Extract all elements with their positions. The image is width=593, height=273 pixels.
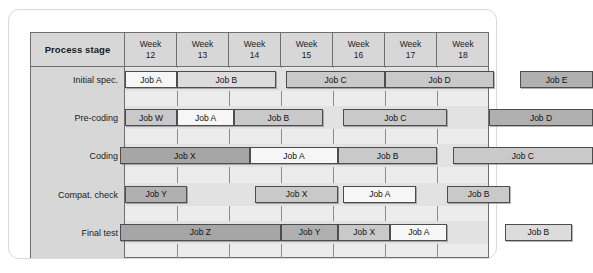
week-prefix: Week — [296, 39, 318, 49]
column-header-week-15: Week15 — [281, 33, 333, 66]
gantt-grid: Job AJob BJob CJob DJob EJob WJob AJob B… — [125, 67, 488, 258]
week-number: 18 — [458, 50, 467, 60]
column-header-week-18: Week18 — [437, 33, 489, 66]
row-label-compat-check: Compat. check — [58, 186, 118, 204]
column-header-week-13: Week13 — [177, 33, 229, 66]
week-prefix: Week — [348, 39, 370, 49]
gantt-bar[interactable]: Job B — [177, 71, 276, 88]
table-body: Initial spec.Pre-codingCodingCompat. che… — [31, 67, 488, 258]
gantt-bar[interactable]: Job Y — [125, 186, 187, 203]
week-prefix: Week — [140, 39, 162, 49]
gantt-bar[interactable]: Job X — [120, 147, 250, 164]
week-prefix: Week — [192, 39, 214, 49]
gantt-bar[interactable]: Job B — [447, 186, 509, 203]
gantt-bar[interactable]: Job B — [234, 109, 322, 126]
week-number: 13 — [198, 50, 207, 60]
week-prefix: Week — [452, 39, 474, 49]
column-header-process-stage: Process stage — [31, 33, 125, 66]
gantt-bar[interactable]: Job B — [505, 224, 573, 241]
gantt-bar[interactable]: Job A — [125, 71, 177, 88]
gantt-bar[interactable]: Job A — [343, 186, 416, 203]
gantt-bar[interactable]: Job D — [489, 109, 593, 126]
column-header-week-17: Week17 — [385, 33, 437, 66]
week-number: 15 — [302, 50, 311, 60]
week-number: 14 — [250, 50, 259, 60]
row-label-coding: Coding — [89, 147, 118, 165]
gantt-bar[interactable]: Job Y — [281, 224, 338, 241]
gantt-bar[interactable]: Job B — [338, 147, 437, 164]
gantt-bar[interactable]: Job E — [520, 71, 593, 88]
stage-label-column: Initial spec.Pre-codingCodingCompat. che… — [31, 67, 125, 258]
week-number: 17 — [406, 50, 415, 60]
row-label-pre-coding: Pre-coding — [74, 109, 118, 127]
gantt-bar[interactable]: Job A — [177, 109, 234, 126]
gantt-bar[interactable]: Job C — [453, 147, 593, 164]
gantt-bar[interactable]: Job C — [286, 71, 385, 88]
gantt-bar[interactable]: Job W — [125, 109, 177, 126]
gantt-bar[interactable]: Job X — [255, 186, 338, 203]
gantt-bar[interactable]: Job A — [390, 224, 447, 241]
row-label-initial-spec: Initial spec. — [73, 71, 118, 89]
gantt-table: Process stage Week12Week13Week14Week15We… — [30, 32, 489, 258]
gantt-bar[interactable]: Job Z — [120, 224, 281, 241]
column-header-week-12: Week12 — [125, 33, 177, 66]
column-header-week-16: Week16 — [333, 33, 385, 66]
chart-frame: Process stage Week12Week13Week14Week15We… — [8, 9, 497, 259]
week-prefix: Week — [400, 39, 422, 49]
row-label-final-test: Final test — [81, 224, 118, 242]
gantt-bar[interactable]: Job A — [250, 147, 338, 164]
gantt-bar[interactable]: Job X — [338, 224, 390, 241]
column-header-week-14: Week14 — [229, 33, 281, 66]
week-prefix: Week — [244, 39, 266, 49]
gantt-bar[interactable]: Job C — [343, 109, 447, 126]
table-header-row: Process stage Week12Week13Week14Week15We… — [31, 33, 488, 67]
gantt-bar[interactable]: Job D — [385, 71, 494, 88]
week-number: 16 — [354, 50, 363, 60]
week-number: 12 — [146, 50, 155, 60]
